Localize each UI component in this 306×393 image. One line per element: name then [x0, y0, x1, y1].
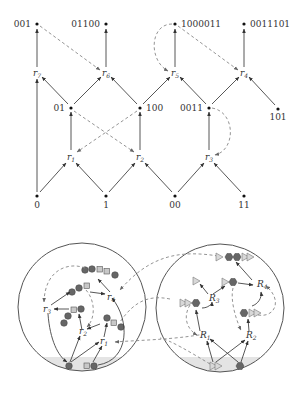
rule-r6: r6: [102, 68, 110, 79]
diagram-canvas: 001 01100 1000011 0011101 r7 r6 r5 r4: [0, 0, 306, 393]
bottom-graph: r3 r2 r1 r4: [10, 243, 300, 377]
middle-nodes: 01 100 0011 101: [54, 103, 287, 122]
node-11: 11: [238, 194, 249, 210]
node-00: 00: [169, 194, 181, 210]
base-nodes: 0 1 00 11: [34, 194, 250, 210]
rule-r1: r1: [67, 152, 75, 163]
node-label: 0011: [180, 103, 203, 113]
node-label: 100: [146, 103, 163, 113]
node-001: 001: [14, 19, 39, 29]
left-rule-r1: r1: [100, 336, 108, 347]
node-0011101: 0011101: [242, 19, 290, 29]
node-label: 01: [54, 103, 65, 113]
node-1: 1: [103, 194, 109, 210]
dashed-edges: [40, 24, 238, 155]
rule-r7: r7: [33, 68, 41, 79]
node-1000011: 1000011: [173, 19, 221, 29]
upper-rule-nodes: r7 r6 r5 r4: [33, 68, 248, 79]
left-rule-r2: r2: [79, 326, 87, 337]
top-graph: 001 01100 1000011 0011101 r7 r6 r5 r4: [14, 19, 290, 210]
right-rule-R3: R3: [208, 293, 220, 304]
lower-rule-nodes: r1 r2 r3: [67, 152, 213, 163]
node-100: 100: [138, 103, 163, 113]
diagram-svg: 001 01100 1000011 0011101 r7 r6 r5 r4: [0, 0, 306, 393]
right-circle: [156, 244, 284, 372]
right-circle-content: R3 R4 R1 R2: [180, 253, 275, 370]
node-0011: 0011: [180, 103, 211, 113]
left-rule-r3: r3: [43, 304, 51, 315]
node-label: 101: [269, 112, 286, 122]
cross-circle-dashed-edges: [115, 254, 218, 364]
node-label: 11: [238, 200, 249, 210]
top-level-nodes: 001 01100 1000011 0011101: [14, 19, 290, 29]
node-label: 00: [169, 200, 181, 210]
node-101: 101: [269, 107, 286, 122]
rule-r4: r4: [240, 68, 248, 79]
node-01: 01: [54, 103, 73, 113]
node-label: 0011101: [250, 19, 290, 29]
left-circle-content: r3 r2 r1 r4: [43, 266, 124, 370]
node-label: 1: [103, 200, 109, 210]
right-rule-R1: R1: [199, 330, 211, 341]
right-rule-R2: R2: [245, 330, 257, 341]
rule-r5: r5: [171, 68, 179, 79]
node-01100: 01100: [71, 19, 107, 29]
rule-r3: r3: [205, 152, 213, 163]
right-base-band: [150, 357, 300, 377]
node-label: 001: [14, 19, 31, 29]
right-rule-R4: R4: [256, 279, 268, 290]
node-label: 1000011: [181, 19, 221, 29]
node-0: 0: [34, 194, 40, 210]
node-label: 0: [34, 200, 40, 210]
node-label: 01100: [71, 19, 100, 29]
rule-r2: r2: [136, 152, 144, 163]
